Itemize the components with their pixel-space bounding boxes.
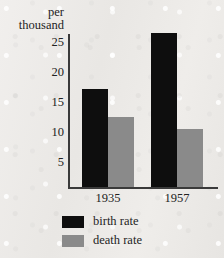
y-axis-tick-labels: 25 20 15 10 5 bbox=[32, 0, 64, 258]
legend-swatch-death-icon bbox=[62, 235, 84, 247]
legend-item-birth-rate: birth rate bbox=[62, 212, 222, 231]
legend-label-birth-rate: birth rate bbox=[93, 215, 138, 228]
legend-label-death-rate: death rate bbox=[93, 234, 142, 247]
bar-1935-death-rate bbox=[108, 117, 134, 187]
legend-item-death-rate: death rate bbox=[62, 231, 222, 250]
bar-1957-birth-rate bbox=[151, 33, 177, 187]
x-label-1957: 1957 bbox=[155, 191, 199, 205]
chart-legend: birth rate death rate bbox=[62, 212, 222, 250]
x-axis-line bbox=[68, 187, 218, 189]
y-tick-20: 20 bbox=[32, 66, 64, 79]
y-tick-10: 10 bbox=[32, 126, 64, 139]
x-label-1935: 1935 bbox=[86, 191, 130, 205]
y-tick-5: 5 bbox=[32, 156, 64, 169]
y-tick-15: 15 bbox=[32, 96, 64, 109]
bars-container bbox=[69, 33, 219, 187]
legend-swatch-birth-icon bbox=[62, 216, 84, 228]
y-tick-25: 25 bbox=[32, 36, 64, 49]
chart-figure: per thousand 25 20 15 10 5 1935 1957 bir… bbox=[0, 0, 224, 258]
bar-1935-birth-rate bbox=[82, 89, 108, 187]
bar-1957-death-rate bbox=[177, 129, 203, 187]
